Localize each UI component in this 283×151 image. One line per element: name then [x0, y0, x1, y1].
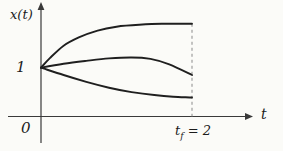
upper-trajectory-curve: [41, 24, 192, 68]
plot-canvas: [0, 0, 283, 151]
x-axis-arrowhead: [245, 113, 253, 120]
y-axis-label: x(t): [10, 8, 33, 21]
y-axis-arrowhead: [38, 2, 45, 10]
y-tick-label-1: 1: [16, 60, 26, 75]
middle-trajectory-curve: [41, 57, 192, 75]
final-time-tick-label: tf = 2: [175, 124, 211, 137]
origin-label: 0: [21, 121, 31, 136]
lower-trajectory-curve: [41, 68, 192, 98]
x-axis-label: t: [261, 107, 267, 121]
tf-value: = 2: [184, 123, 211, 138]
trajectory-figure: x(t) 1 0 t tf = 2: [0, 0, 283, 151]
